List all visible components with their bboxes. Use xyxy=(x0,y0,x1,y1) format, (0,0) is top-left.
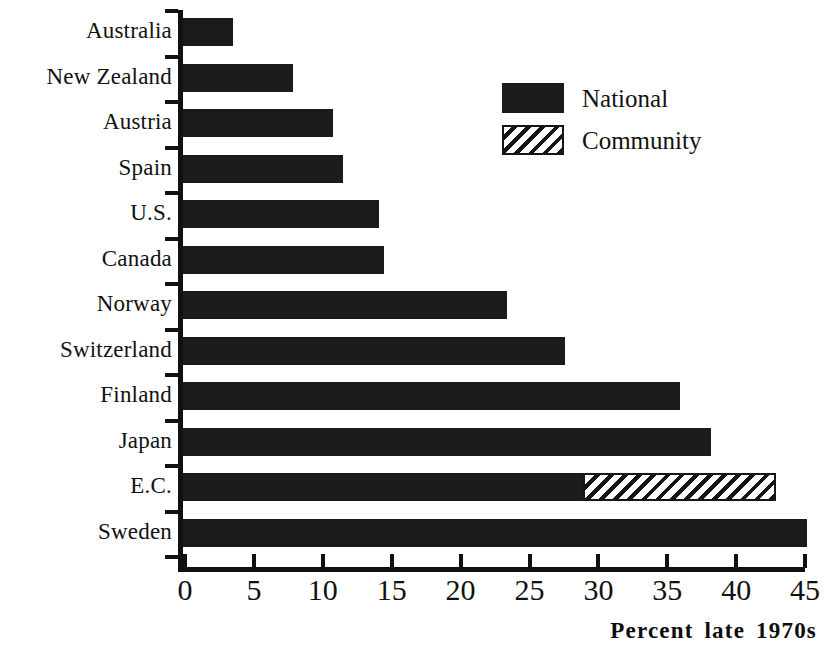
x-axis-tick-label: 25 xyxy=(500,575,560,605)
category-label: Switzerland xyxy=(60,338,172,361)
x-axis-tick xyxy=(183,554,187,568)
x-axis-tick-label: 35 xyxy=(637,575,697,605)
bar-segment-national xyxy=(183,155,343,183)
bar-segment-national xyxy=(183,473,583,501)
x-axis-tick xyxy=(528,554,532,568)
legend-swatch-national-icon xyxy=(502,83,564,113)
y-axis-tick xyxy=(165,9,178,13)
y-axis-tick xyxy=(165,55,178,59)
category-label: Spain xyxy=(119,156,172,179)
y-axis-tick xyxy=(165,328,178,332)
x-axis-tick xyxy=(596,554,600,568)
x-axis-tick-label: 10 xyxy=(293,575,353,605)
bar-segment-national xyxy=(183,64,293,92)
category-label: Sweden xyxy=(98,520,172,543)
caption-fragment xyxy=(4,640,264,656)
category-label: Japan xyxy=(119,429,172,452)
bar-segment-national xyxy=(183,382,680,410)
legend-item-national: National xyxy=(502,80,792,116)
x-axis-tick xyxy=(390,554,394,568)
x-axis-tick-label: 40 xyxy=(706,575,766,605)
bar-row xyxy=(183,18,803,46)
category-label: Norway xyxy=(97,292,172,315)
x-axis-title: Percent late 1970s xyxy=(610,618,817,644)
bar-chart: AustraliaNew ZealandAustriaSpainU.S.Cana… xyxy=(0,0,835,658)
category-label: New Zealand xyxy=(47,65,172,88)
bar-segment-national xyxy=(183,291,507,319)
category-label: Australia xyxy=(86,19,172,42)
y-axis-tick xyxy=(165,464,178,468)
x-axis-tick-label: 0 xyxy=(155,575,215,605)
legend-label-national: National xyxy=(582,86,668,111)
x-axis-tick xyxy=(321,554,325,568)
bar-row xyxy=(183,519,803,547)
x-axis-tick-label: 5 xyxy=(224,575,284,605)
x-axis-tick xyxy=(252,554,256,568)
x-axis-tick-label: 20 xyxy=(431,575,491,605)
y-axis-tick xyxy=(165,146,178,150)
x-axis-tick-label: 45 xyxy=(775,575,835,605)
legend-item-community: Community xyxy=(502,122,792,158)
chart-legend: National Community xyxy=(502,80,792,164)
category-label: Austria xyxy=(103,110,172,133)
y-axis-tick xyxy=(165,237,178,241)
bar-row xyxy=(183,337,803,365)
bar-segment-national xyxy=(183,109,333,137)
x-axis-tick xyxy=(665,554,669,568)
y-axis-tick xyxy=(165,419,178,423)
x-axis-line xyxy=(178,567,805,572)
category-label: Finland xyxy=(100,383,172,406)
legend-label-community: Community xyxy=(582,128,701,153)
y-axis-tick xyxy=(165,510,178,514)
legend-swatch-community-icon xyxy=(502,125,564,155)
bar-segment-national xyxy=(183,18,233,46)
y-axis-tick xyxy=(165,100,178,104)
x-axis-tick-label: 30 xyxy=(568,575,628,605)
bar-row xyxy=(183,291,803,319)
bar-row xyxy=(183,246,803,274)
bar-segment-national xyxy=(183,519,807,547)
x-axis-tick xyxy=(734,554,738,568)
bar-row xyxy=(183,200,803,228)
x-axis-tick xyxy=(803,554,807,568)
bar-row xyxy=(183,428,803,456)
bar-segment-national xyxy=(183,200,379,228)
bar-row xyxy=(183,473,803,501)
y-axis-tick xyxy=(165,555,178,559)
y-axis-tick xyxy=(165,373,178,377)
bar-row xyxy=(183,382,803,410)
y-axis-tick xyxy=(165,282,178,286)
category-axis: AustraliaNew ZealandAustriaSpainU.S.Cana… xyxy=(0,0,172,556)
bar-segment-national xyxy=(183,428,711,456)
category-label: E.C. xyxy=(130,474,172,497)
x-axis-tick xyxy=(459,554,463,568)
bar-segment-national xyxy=(183,337,565,365)
category-label: Canada xyxy=(102,247,172,270)
bar-segment-national xyxy=(183,246,384,274)
bar-segment-community xyxy=(583,473,776,501)
x-axis-tick-label: 15 xyxy=(362,575,422,605)
category-label: U.S. xyxy=(130,201,172,224)
y-axis-tick xyxy=(165,191,178,195)
